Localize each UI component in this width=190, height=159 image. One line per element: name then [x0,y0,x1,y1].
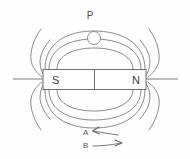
magnet-north-label: N [132,74,140,86]
field-line-open-upper-left-outer [31,29,42,77]
field-line-open-upper-right-outer [148,29,159,77]
field-line-upper-inner [57,48,133,69]
field-line-open-lower-right-outer [148,82,159,130]
probe-label: P [87,10,94,21]
magnet-field-diagram: P S N A B [0,0,190,159]
magnet-south-label: S [52,74,59,86]
arrow-b-label: B [83,141,88,150]
arrow-b-head-icon [115,140,122,146]
field-line-open-lower-left-outer [31,82,42,130]
field-line-lower-outer [45,90,145,128]
arrow-a-label: A [83,128,89,137]
field-line-lower-middle [49,90,141,120]
field-line-lower-inner [57,90,133,111]
probe-point-circle [88,32,101,45]
diagram-canvas: P S N A B [0,0,190,159]
